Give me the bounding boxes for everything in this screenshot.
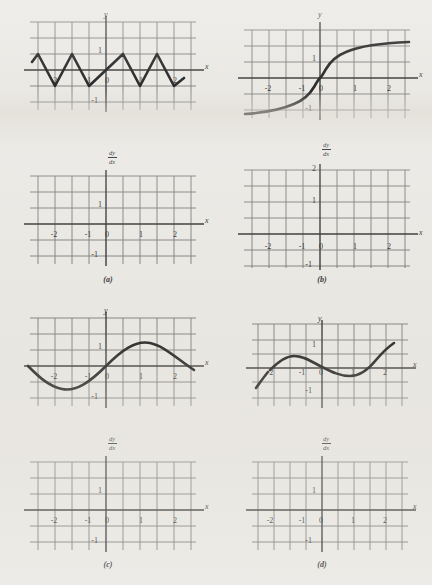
textbook-figure-sheet: y x 1 -1 -2 -1 0 1 2 dy dx x 1 -1 -2 -1 … <box>0 0 432 585</box>
panel-d-bottom-plot <box>240 454 420 554</box>
panel-a-bottom-xtick-neg1: -1 <box>81 230 95 239</box>
panel-a-top-xtick-neg2: -2 <box>47 76 61 85</box>
panel-b-top-y-axis-label: y <box>318 10 322 19</box>
panel-d-dx-denominator: dx <box>318 445 334 452</box>
panel-a-bottom-xtick-neg2: -2 <box>47 230 61 239</box>
panel-a-dx-denominator: dx <box>104 159 120 166</box>
panel-a-top-graph <box>18 14 208 114</box>
panel-b-top-ytick-neg1: -1 <box>298 104 312 113</box>
panel-d-top-ytick-neg1: -1 <box>298 386 312 395</box>
panel-c-top-ytick-1: 1 <box>88 342 102 351</box>
panel-c-bottom-xtick-2: 2 <box>168 516 182 525</box>
panel-a-top-y-axis-label: y <box>104 10 108 19</box>
panel-c-bottom-xtick-neg1: -1 <box>81 516 95 525</box>
panel-b-bottom-graph <box>232 162 422 272</box>
panel-a-bottom-ytick-neg1: -1 <box>84 250 98 259</box>
panel-c-bottom-xtick-0: 0 <box>100 516 114 525</box>
panel-d-top-xtick-1: 1 <box>346 368 360 377</box>
panel-c-top-xtick-0: 0 <box>100 372 114 381</box>
panel-a-top-xtick-0: 0 <box>100 76 114 85</box>
panel-a-top-xtick-1: 1 <box>134 76 148 85</box>
panel-d-bottom-derivative-label: dy dx <box>318 436 334 451</box>
panel-c-top-graph <box>18 310 208 410</box>
panel-d-bottom-ytick-1: 1 <box>302 486 316 495</box>
panel-c-bottom-ytick-neg1: -1 <box>84 536 98 545</box>
panel-d-top-xtick-0: 0 <box>314 368 328 377</box>
panel-a-bottom-xtick-0: 0 <box>100 230 114 239</box>
panel-b-top-xtick-neg2: -2 <box>261 84 275 93</box>
panel-c-dy-numerator: dy <box>104 436 120 443</box>
panel-d-top-x-axis-label: x <box>413 360 417 369</box>
panel-b-top-x-axis-label: x <box>419 70 423 79</box>
panel-c-bottom-ytick-1: 1 <box>88 486 102 495</box>
panel-d-bottom-xtick-2: 2 <box>378 516 392 525</box>
panel-a-bottom-xtick-1: 1 <box>134 230 148 239</box>
panel-b-bottom-xtick-neg1: -1 <box>295 242 309 251</box>
panel-d-caption: (d) <box>307 560 337 569</box>
panel-a-top-ytick-neg1: -1 <box>84 96 98 105</box>
panel-b-bottom-x-axis-label: x <box>419 228 423 237</box>
panel-c-bottom-derivative-label: dy dx <box>104 436 120 451</box>
panel-a-top-xtick-neg1: -1 <box>81 76 95 85</box>
panel-d-bottom-ytick-neg1: -1 <box>298 536 312 545</box>
panel-c-bottom-xtick-1: 1 <box>134 516 148 525</box>
panel-b-bottom-xtick-0: 0 <box>314 242 328 251</box>
panel-d-bottom-xtick-neg2: -2 <box>263 516 277 525</box>
panel-b-top-plot <box>232 14 422 124</box>
panel-a-top-x-axis-label: x <box>205 62 209 71</box>
panel-b-bottom-plot <box>232 162 422 272</box>
panel-b-bottom-ytick-1: 1 <box>302 196 316 205</box>
panel-b-bottom-ytick-2: 2 <box>302 164 316 173</box>
panel-d-top-plot <box>240 318 420 410</box>
panel-a-bottom-x-axis-label: x <box>205 216 209 225</box>
panel-b-dy-numerator: dy <box>318 142 334 149</box>
panel-c-top-y-axis-label: y <box>104 306 108 315</box>
panel-a-top-plot <box>18 14 208 114</box>
panel-b-bottom-ytick-neg1: -1 <box>298 260 312 269</box>
panel-d-top-curve <box>270 343 394 376</box>
panel-c-top-xtick-neg1: -1 <box>81 372 95 381</box>
panel-c-top-xtick-1: 1 <box>134 372 148 381</box>
panel-a-bottom-derivative-label: dy dx <box>104 150 120 165</box>
panel-c-top-plot <box>18 310 208 410</box>
panel-a-bottom-ytick-1: 1 <box>88 200 102 209</box>
panel-c-top-x-axis-label: x <box>205 358 209 367</box>
panel-d-top-y-axis-label: y <box>318 314 322 323</box>
panel-c-bottom-graph <box>18 454 208 554</box>
panel-d-bottom-graph <box>240 454 420 554</box>
panel-c-bottom-xtick-neg2: -2 <box>47 516 61 525</box>
panel-d-top-graph <box>240 318 420 410</box>
panel-a-bottom-xtick-2: 2 <box>168 230 182 239</box>
panel-c-bottom-plot <box>18 454 208 554</box>
panel-d-top-xtick-neg2: -2 <box>263 368 277 377</box>
panel-b-top-xtick-2: 2 <box>382 84 396 93</box>
panel-b-bottom-derivative-label: dy dx <box>318 142 334 157</box>
panel-d-top-ytick-1: 1 <box>302 340 316 349</box>
panel-c-dx-denominator: dx <box>104 445 120 452</box>
panel-a-top-xtick-2: 2 <box>168 76 182 85</box>
panel-b-dx-denominator: dx <box>318 151 334 158</box>
panel-b-top-ytick-1: 1 <box>302 54 316 63</box>
panel-b-top-graph <box>232 14 422 124</box>
panel-d-bottom-xtick-1: 1 <box>346 516 360 525</box>
panel-b-bottom-xtick-1: 1 <box>348 242 362 251</box>
panel-b-bottom-xtick-2: 2 <box>382 242 396 251</box>
panel-d-top-xtick-neg1: -1 <box>295 368 309 377</box>
panel-b-top-xtick-neg1: -1 <box>295 84 309 93</box>
panel-a-top-ytick-1: 1 <box>88 46 102 55</box>
panel-d-bottom-xtick-neg1: -1 <box>295 516 309 525</box>
panel-d-dy-numerator: dy <box>318 436 334 443</box>
panel-a-caption: (a) <box>93 275 123 284</box>
panel-c-top-xtick-neg2: -2 <box>47 372 61 381</box>
panel-b-top-xtick-1: 1 <box>348 84 362 93</box>
panel-b-bottom-xtick-neg2: -2 <box>261 242 275 251</box>
panel-b-top-xtick-0: 0 <box>314 84 328 93</box>
panel-c-top-xtick-2: 2 <box>168 372 182 381</box>
panel-a-bottom-plot <box>18 168 208 268</box>
panel-c-bottom-x-axis-label: x <box>205 502 209 511</box>
panel-d-bottom-x-axis-label: x <box>413 502 417 511</box>
panel-b-caption: (b) <box>307 275 337 284</box>
panel-a-bottom-graph <box>18 168 208 268</box>
panel-c-top-ytick-neg1: -1 <box>84 392 98 401</box>
panel-a-dy-numerator: dy <box>104 150 120 157</box>
